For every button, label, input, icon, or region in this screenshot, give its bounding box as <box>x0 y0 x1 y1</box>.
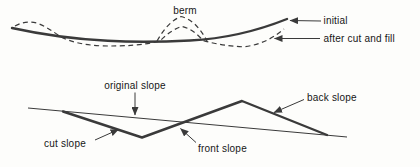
after-cut-fill-line <box>15 22 284 47</box>
initial-label: initial <box>324 15 348 26</box>
back-slope-label: back slope <box>307 92 357 103</box>
slope-terminology-svg: berm initial after cut and fill original… <box>0 0 420 167</box>
profile-diagram: berm initial after cut and fill <box>12 5 395 47</box>
initial-profile-line <box>12 19 287 42</box>
initial-leader-arrow <box>290 21 321 22</box>
back-slope-leader-arrow <box>274 100 304 113</box>
original-slope-label: original slope <box>104 80 166 91</box>
slope-diagram: original slope cut slope front slope bac… <box>28 80 357 154</box>
berm-label: berm <box>173 5 197 16</box>
cut-slope-leader-arrow <box>95 130 119 141</box>
after-cut-fill-label: after cut and fill <box>324 33 395 44</box>
cut-slope-label: cut slope <box>44 138 86 149</box>
front-slope-label: front slope <box>198 143 247 154</box>
original-slope-line <box>28 108 347 137</box>
slope-terminology-figure: berm initial after cut and fill original… <box>0 0 420 167</box>
front-slope-leader-arrow <box>181 129 197 143</box>
